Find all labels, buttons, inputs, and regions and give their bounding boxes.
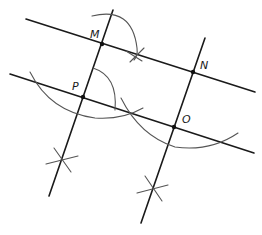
point-n	[191, 70, 195, 74]
label-p: P	[72, 80, 79, 93]
label-n: N	[200, 59, 208, 72]
cross-mark-right	[137, 176, 168, 201]
label-m: M	[90, 28, 100, 41]
geometry-diagram: M N P O	[0, 0, 262, 235]
point-o	[172, 125, 176, 129]
point-m	[100, 42, 104, 46]
cross-mark-left	[46, 148, 78, 172]
arc-middle	[121, 98, 238, 148]
line-mp	[49, 10, 113, 196]
line-mn	[26, 19, 255, 92]
label-o: O	[182, 113, 191, 126]
point-p	[81, 95, 85, 99]
